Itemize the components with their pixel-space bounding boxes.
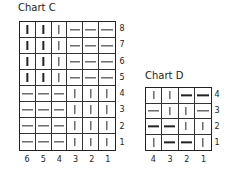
horizontal-stitch-icon — [67, 70, 83, 86]
vertical-stitch-icon — [99, 134, 115, 150]
vertical-stitch-icon — [83, 86, 99, 102]
vertical-stitch-icon — [67, 86, 83, 102]
horizontal-stitch-icon — [83, 70, 99, 86]
vertical-stitch-icon — [52, 54, 68, 70]
row-number: 2 — [212, 122, 222, 131]
horizontal-stitch-icon — [83, 22, 99, 38]
vertical-stitch-icon — [99, 118, 115, 134]
column-number: 1 — [103, 155, 113, 164]
vertical-stitch-icon — [99, 86, 115, 102]
horizontal-stitch-icon — [52, 118, 68, 134]
horizontal-stitch-icon — [36, 86, 52, 102]
horizontal-stitch-icon — [36, 134, 52, 150]
column-number: 4 — [54, 155, 64, 164]
column-number: 2 — [182, 155, 192, 164]
row-number: 8 — [117, 24, 127, 33]
vertical-stitch-icon — [52, 38, 68, 54]
column-number: 3 — [165, 155, 175, 164]
vertical-stitch-icon — [67, 134, 83, 150]
vertical-stitch-icon — [83, 102, 99, 118]
vertical-stitch-icon — [20, 54, 36, 70]
horizontal-stitch-icon — [162, 135, 178, 151]
vertical-stitch-icon — [83, 118, 99, 134]
horizontal-stitch-icon — [162, 119, 178, 135]
vertical-stitch-icon — [67, 102, 83, 118]
column-number: 1 — [199, 155, 209, 164]
horizontal-stitch-icon — [20, 86, 36, 102]
row-number: 3 — [117, 105, 127, 114]
horizontal-stitch-icon — [99, 54, 115, 70]
row-number: 7 — [117, 40, 127, 49]
horizontal-stitch-icon — [195, 104, 211, 120]
row-number: 1 — [212, 138, 222, 147]
vertical-stitch-icon — [195, 119, 211, 135]
horizontal-stitch-icon — [67, 22, 83, 38]
horizontal-stitch-icon — [52, 134, 68, 150]
row-number: 6 — [117, 57, 127, 66]
vertical-stitch-icon — [52, 70, 68, 86]
vertical-stitch-icon — [36, 70, 52, 86]
vertical-stitch-icon — [20, 22, 36, 38]
horizontal-stitch-icon — [67, 38, 83, 54]
horizontal-stitch-icon — [36, 118, 52, 134]
vertical-stitch-icon — [20, 70, 36, 86]
vertical-stitch-icon — [146, 88, 162, 104]
vertical-stitch-icon — [179, 104, 195, 120]
column-number: 5 — [38, 155, 48, 164]
horizontal-stitch-icon — [52, 86, 68, 102]
chart-c-grid — [19, 21, 116, 151]
horizontal-stitch-icon — [83, 38, 99, 54]
horizontal-stitch-icon — [146, 119, 162, 135]
vertical-stitch-icon — [36, 54, 52, 70]
column-number: 3 — [71, 155, 81, 164]
horizontal-stitch-icon — [20, 102, 36, 118]
horizontal-stitch-icon — [20, 134, 36, 150]
vertical-stitch-icon — [195, 135, 211, 151]
row-number: 4 — [212, 90, 222, 99]
vertical-stitch-icon — [36, 38, 52, 54]
horizontal-stitch-icon — [20, 118, 36, 134]
vertical-stitch-icon — [67, 118, 83, 134]
horizontal-stitch-icon — [99, 70, 115, 86]
chart-d-grid — [145, 87, 212, 151]
row-number: 2 — [117, 122, 127, 131]
horizontal-stitch-icon — [179, 88, 195, 104]
column-number: 2 — [87, 155, 97, 164]
vertical-stitch-icon — [36, 22, 52, 38]
vertical-stitch-icon — [162, 104, 178, 120]
vertical-stitch-icon — [20, 38, 36, 54]
row-number: 3 — [212, 106, 222, 115]
horizontal-stitch-icon — [195, 88, 211, 104]
horizontal-stitch-icon — [52, 102, 68, 118]
row-number: 4 — [117, 89, 127, 98]
horizontal-stitch-icon — [99, 22, 115, 38]
vertical-stitch-icon — [162, 88, 178, 104]
column-number: 6 — [22, 155, 32, 164]
vertical-stitch-icon — [83, 134, 99, 150]
chart-c-title: Chart C — [18, 2, 56, 13]
column-number: 4 — [148, 155, 158, 164]
vertical-stitch-icon — [99, 102, 115, 118]
horizontal-stitch-icon — [99, 38, 115, 54]
vertical-stitch-icon — [52, 22, 68, 38]
horizontal-stitch-icon — [146, 104, 162, 120]
horizontal-stitch-icon — [36, 102, 52, 118]
horizontal-stitch-icon — [67, 54, 83, 70]
horizontal-stitch-icon — [83, 54, 99, 70]
chart-d-title: Chart D — [145, 70, 183, 81]
row-number: 5 — [117, 73, 127, 82]
horizontal-stitch-icon — [179, 135, 195, 151]
vertical-stitch-icon — [146, 135, 162, 151]
vertical-stitch-icon — [179, 119, 195, 135]
row-number: 1 — [117, 138, 127, 147]
